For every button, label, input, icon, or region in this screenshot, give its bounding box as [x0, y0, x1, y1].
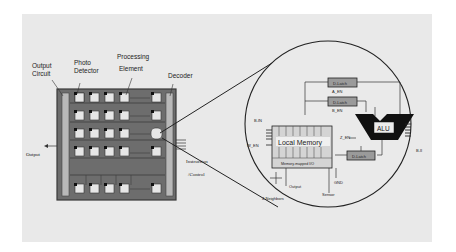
label-neighbors: 4-Neighbors: [262, 196, 284, 201]
label-sensor: Sensor: [322, 192, 335, 197]
svg-text:D-Latch: D-Latch: [333, 100, 347, 105]
label-bit-out: B-II: [416, 148, 422, 153]
label-decoder: Decoder: [168, 72, 193, 79]
label-photo-detector: Photo: [74, 59, 91, 66]
label-alu: ALU: [377, 125, 390, 132]
label-bit-in: B-IN: [254, 118, 262, 123]
label-local-memory: Local Memory: [278, 139, 322, 147]
svg-text:Detector: Detector: [74, 67, 99, 74]
chip-array: [44, 78, 186, 200]
processing-element-detail: D-Latch A_EN D-Latch B_EN ALU B-II: [245, 41, 422, 207]
label-b-en: B_EN: [332, 108, 343, 113]
architecture-diagram: Output Circuit Photo Detector Processing…: [0, 0, 456, 252]
svg-text:D-Latch: D-Latch: [333, 81, 347, 86]
svg-text:Circuit: Circuit: [32, 70, 51, 77]
label-gnd: GND: [334, 180, 343, 185]
label-z-en: Z_EN: [340, 135, 350, 140]
label-output-pin: Output: [289, 184, 302, 189]
label-control: /Control: [188, 172, 205, 177]
svg-text:D-Latch: D-Latch: [352, 154, 366, 159]
label-w-en: W_EN: [247, 143, 259, 148]
label-processing-element: Processing: [117, 53, 150, 61]
label-a-en: A_EN: [332, 89, 343, 94]
svg-text:Element: Element: [119, 65, 143, 72]
label-memory-mapped-io: Memory-mapped I/O: [281, 162, 314, 166]
label-output-circuit: Output: [32, 62, 52, 70]
output-circuit-bar: [62, 93, 69, 196]
label-output: Output: [26, 152, 41, 157]
